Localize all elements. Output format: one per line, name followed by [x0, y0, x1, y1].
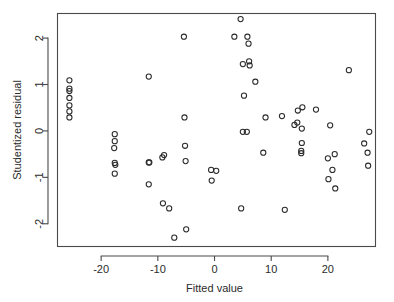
data-point: [182, 115, 187, 120]
y-tick-label: 0: [33, 128, 45, 134]
data-point: [282, 207, 287, 212]
data-point: [67, 78, 72, 83]
y-tick-label: 1: [33, 81, 45, 87]
data-point: [328, 123, 333, 128]
data-point: [214, 168, 219, 173]
data-point: [245, 34, 250, 39]
data-points-group: [67, 16, 372, 240]
data-point: [238, 16, 243, 21]
data-point: [279, 113, 284, 118]
data-point: [67, 95, 72, 100]
data-point: [112, 139, 117, 144]
data-point: [239, 206, 244, 211]
x-tick-label: 10: [265, 263, 277, 275]
data-point: [67, 103, 72, 108]
data-point: [167, 206, 172, 211]
x-tick-label: -10: [150, 263, 166, 275]
data-point: [112, 146, 117, 151]
data-point: [366, 163, 371, 168]
data-point: [246, 41, 251, 46]
data-point: [325, 156, 330, 161]
scatter-plot-figure: -20-1001020210-1-2Fitted valueStudentize…: [0, 0, 394, 302]
data-point: [112, 171, 117, 176]
data-point: [184, 227, 189, 232]
x-tick-label: -20: [93, 263, 109, 275]
data-point: [326, 177, 331, 182]
x-tick-label: 20: [322, 263, 334, 275]
data-point: [181, 34, 186, 39]
data-point: [240, 61, 245, 66]
data-point: [209, 178, 214, 183]
data-point: [365, 150, 370, 155]
x-tick-label: 0: [211, 263, 217, 275]
data-point: [263, 115, 268, 120]
data-point: [299, 126, 304, 131]
data-point: [182, 143, 187, 148]
data-point: [67, 115, 72, 120]
data-point: [232, 34, 237, 39]
data-point: [146, 74, 151, 79]
data-point: [241, 93, 246, 98]
data-point: [261, 150, 266, 155]
x-axis-title: Fitted value: [186, 282, 243, 294]
data-point: [209, 167, 214, 172]
chart-canvas: -20-1001020210-1-2Fitted valueStudentize…: [0, 0, 394, 302]
data-point: [146, 182, 151, 187]
data-point: [313, 107, 318, 112]
y-axis-title: Studentized residual: [11, 80, 23, 180]
data-point: [300, 105, 305, 110]
data-point: [112, 132, 117, 137]
data-point: [183, 159, 188, 164]
data-point: [67, 109, 72, 114]
data-point: [346, 68, 351, 73]
y-tick-label: -2: [33, 219, 45, 229]
y-tick-label: 2: [33, 35, 45, 41]
plot-frame: [58, 14, 376, 247]
data-point: [253, 79, 258, 84]
data-point: [160, 201, 165, 206]
data-point: [332, 152, 337, 157]
data-point: [330, 167, 335, 172]
data-point: [299, 140, 304, 145]
data-point: [172, 235, 177, 240]
y-tick-label: -1: [33, 172, 45, 182]
data-point: [362, 141, 367, 146]
data-point: [333, 186, 338, 191]
data-point: [367, 129, 372, 134]
